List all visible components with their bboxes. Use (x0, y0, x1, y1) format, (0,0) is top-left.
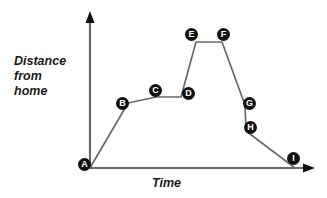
point-marker-d: D (182, 87, 195, 100)
graph-canvas (0, 0, 327, 198)
point-marker-e: E (185, 28, 198, 41)
point-marker-a: A (78, 158, 91, 171)
point-marker-g: G (243, 97, 256, 110)
point-marker-b: B (116, 97, 129, 110)
x-axis-arrowhead (303, 164, 315, 173)
y-axis-label: Distance from home (14, 54, 66, 98)
point-marker-i: I (287, 152, 300, 165)
point-marker-f: F (217, 28, 230, 41)
point-marker-h: H (244, 121, 257, 134)
y-axis (86, 11, 95, 168)
x-axis-label: Time (152, 176, 181, 191)
point-marker-c: C (149, 84, 162, 97)
x-axis (90, 164, 315, 173)
distance-time-graph-figure: Distance from home Time A B C D E F G H … (0, 0, 327, 198)
y-axis-arrowhead (86, 11, 95, 23)
